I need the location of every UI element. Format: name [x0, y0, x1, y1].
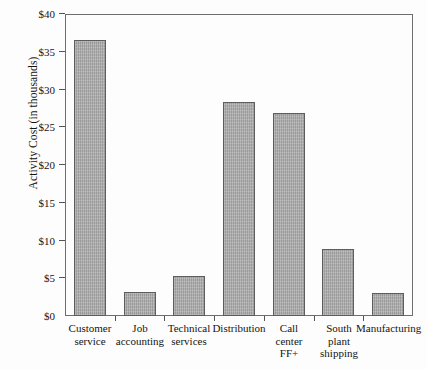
y-axis-tick-label: $0	[44, 309, 55, 323]
x-axis-label-line: plant	[307, 335, 371, 348]
bar	[74, 40, 106, 316]
y-axis-tick-label: $25	[39, 120, 56, 134]
activity-cost-bar-chart: Activity Cost (in thousands) $40$35$30$2…	[0, 0, 427, 369]
y-axis-tick-label: $5	[44, 271, 55, 285]
x-axis-tick-mark	[164, 316, 165, 321]
y-axis-tick-label: $15	[39, 196, 56, 210]
y-axis-tick: $25	[0, 120, 65, 134]
bar	[173, 276, 205, 316]
y-axis-tick-label: $20	[39, 158, 56, 172]
y-axis-tick: $15	[0, 196, 65, 210]
x-axis-label-line: Manufacturing	[356, 322, 420, 335]
y-axis-tick: $0	[0, 309, 65, 323]
y-axis-tick: $30	[0, 83, 65, 97]
y-axis-tick-label: $40	[39, 7, 56, 21]
x-axis-label-line: shipping	[307, 347, 371, 360]
y-axis-tick-label: $30	[39, 83, 56, 97]
y-axis-tick-label: $35	[39, 45, 56, 59]
x-axis-tick-mark	[115, 316, 116, 321]
x-axis-label: Manufacturing	[356, 322, 420, 335]
bar	[124, 292, 156, 316]
x-axis-tick-mark	[363, 316, 364, 321]
y-axis-tick: $20	[0, 158, 65, 172]
y-axis-tick: $35	[0, 45, 65, 59]
bar	[223, 102, 255, 316]
y-axis-tick: $40	[0, 7, 65, 21]
y-axis-tick: $10	[0, 234, 65, 248]
y-axis-tick-label: $10	[39, 234, 56, 248]
x-axis-tick-mark	[314, 316, 315, 321]
y-axis-tick: $5	[0, 271, 65, 285]
bar	[372, 293, 404, 316]
x-axis-tick-mark	[264, 316, 265, 321]
bar	[322, 249, 354, 316]
bar	[273, 113, 305, 316]
x-axis-label-line: services	[157, 335, 221, 348]
x-axis-tick-mark	[214, 316, 215, 321]
